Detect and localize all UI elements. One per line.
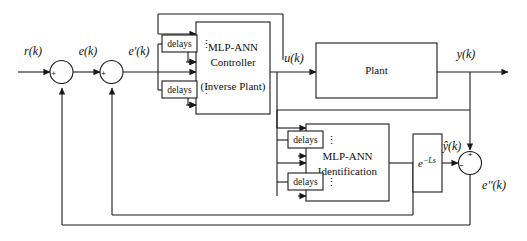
- label-output-hat-signal: ŷ(k): [442, 139, 462, 153]
- sum2-plus-sign: +: [101, 69, 106, 78]
- sum3-minus-sign: −: [459, 161, 464, 170]
- diagram-svg: + − + − + − MLP-ANN Controller (Inverse …: [0, 0, 527, 241]
- transport-delay-exponent: −Ls: [423, 156, 436, 165]
- controller-label-line1: MLP-ANN: [208, 41, 258, 53]
- controller-label-line2: Controller: [210, 56, 256, 68]
- delay-label-controller-upper: delays: [167, 39, 192, 49]
- sum3-plus-sign: +: [468, 150, 473, 159]
- label-error-prime-signal: e'(k): [128, 44, 149, 58]
- identification-label-line1: MLP-ANN: [322, 150, 372, 162]
- delay-label-identification-upper: delays: [293, 135, 318, 145]
- label-control-signal: u(k): [284, 51, 303, 65]
- label-reference-signal: r(k): [24, 44, 42, 58]
- sum2-minus-sign: −: [109, 79, 114, 88]
- dots-controller-lower: ⋮: [201, 84, 212, 96]
- plant-label: Plant: [365, 64, 388, 76]
- sum1-minus-sign: −: [59, 79, 64, 88]
- sum1-plus-sign: +: [51, 69, 56, 78]
- delay-label-controller-lower: delays: [167, 85, 192, 95]
- delay-label-identification-lower: delays: [293, 177, 318, 187]
- label-error-double-prime-signal: e''(k): [482, 178, 506, 192]
- block-mlp-ann-controller[interactable]: [196, 22, 270, 114]
- label-plant-output-signal: y(k): [456, 47, 476, 61]
- label-error-signal: e(k): [79, 44, 98, 58]
- dots-controller-upper: ⋮: [201, 38, 212, 50]
- block-diagram-canvas: + − + − + − MLP-ANN Controller (Inverse …: [0, 0, 527, 241]
- dots-identification-upper: ⋮: [326, 134, 337, 146]
- dots-identification-lower: ⋮: [326, 176, 337, 188]
